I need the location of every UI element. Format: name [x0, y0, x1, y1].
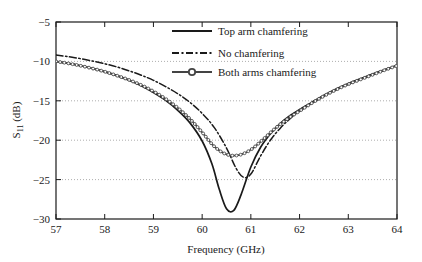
legend-label-0: Top arm chamfering — [218, 25, 308, 37]
series-marker — [172, 103, 175, 106]
x-axis-title: Frequency (GHz) — [187, 243, 265, 256]
series-marker — [375, 72, 378, 75]
series-marker — [254, 145, 257, 148]
series-marker — [325, 93, 328, 96]
series-marker — [181, 111, 184, 114]
series-marker — [178, 108, 181, 111]
series-marker — [263, 137, 266, 140]
series-marker — [344, 84, 347, 87]
series-marker — [59, 61, 62, 64]
series-marker — [88, 66, 91, 69]
series-marker — [199, 129, 202, 132]
x-tick-label: 58 — [99, 223, 111, 235]
series-marker — [151, 89, 154, 92]
series-marker — [243, 152, 246, 155]
series-marker — [158, 93, 161, 96]
series-marker — [383, 69, 386, 72]
series-marker — [193, 123, 196, 126]
series-marker — [379, 70, 382, 73]
series-marker — [231, 154, 234, 157]
series-marker — [318, 97, 321, 100]
series-marker — [235, 154, 238, 157]
y-tick-label: −25 — [33, 174, 51, 186]
series-marker — [266, 134, 269, 137]
legend-label-2: Both arms chamfering — [218, 66, 317, 78]
series-marker — [104, 70, 107, 73]
series-marker — [293, 113, 296, 116]
x-tick-label: 61 — [245, 223, 256, 235]
series-marker — [139, 83, 142, 86]
s11-frequency-line-chart: 5758596061626364 −5−10−15−20−25−30 Frequ… — [0, 0, 422, 262]
series-marker — [367, 75, 370, 78]
y-tick-label: −20 — [33, 134, 51, 146]
series-marker — [363, 76, 366, 79]
series-marker — [272, 128, 275, 131]
series-marker — [247, 150, 250, 153]
y-tick-label: −10 — [33, 55, 51, 67]
series-marker — [307, 104, 310, 107]
series-marker — [329, 91, 332, 94]
series-marker — [336, 88, 339, 91]
series-marker — [207, 139, 210, 142]
series-marker — [175, 105, 178, 108]
series-marker — [227, 153, 230, 156]
legend-label-1: No chamfering — [218, 47, 285, 59]
series-marker — [260, 139, 263, 142]
series-marker — [257, 142, 260, 145]
chart-figure: 5758596061626364 −5−10−15−20−25−30 Frequ… — [0, 0, 422, 262]
series-marker — [202, 132, 205, 135]
series-marker — [100, 69, 103, 72]
series-marker — [165, 98, 168, 101]
series-marker — [310, 102, 313, 105]
series-marker — [143, 85, 146, 88]
y-axis-title-unit: (dB) — [10, 101, 23, 124]
series-marker — [168, 100, 171, 103]
series-marker — [79, 64, 82, 67]
series-marker — [184, 114, 187, 117]
series-marker — [132, 80, 135, 83]
series-marker — [239, 153, 242, 156]
series-marker — [161, 96, 164, 99]
series-marker — [124, 77, 127, 80]
series-marker — [296, 111, 299, 114]
series-marker — [204, 135, 207, 138]
series-marker — [286, 118, 289, 121]
series-marker — [282, 120, 285, 123]
series-marker — [303, 106, 306, 109]
x-tick-label: 57 — [51, 223, 63, 235]
chart-background — [0, 0, 422, 262]
series-marker — [116, 74, 119, 77]
series-marker — [289, 115, 292, 118]
x-tick-label: 64 — [392, 223, 404, 235]
series-marker — [67, 62, 70, 65]
series-marker — [83, 65, 86, 68]
y-axis-title-subscript: 11 — [16, 125, 25, 133]
series-marker — [210, 142, 213, 145]
series-marker — [135, 82, 138, 85]
series-marker — [300, 109, 303, 112]
series-marker — [216, 148, 219, 151]
series-marker — [196, 126, 199, 129]
series-marker — [355, 79, 358, 82]
series-marker — [387, 67, 390, 70]
series-marker — [190, 119, 193, 122]
y-tick-label: −30 — [33, 213, 51, 225]
series-marker — [321, 95, 324, 98]
series-marker — [112, 73, 115, 76]
series-marker — [276, 125, 279, 128]
x-tick-label: 59 — [148, 223, 160, 235]
series-marker — [371, 73, 374, 76]
y-tick-label: −15 — [33, 95, 51, 107]
series-marker — [147, 87, 150, 90]
y-tick-label: −5 — [38, 16, 50, 28]
x-tick-label: 62 — [294, 223, 305, 235]
series-marker — [219, 150, 222, 153]
series-marker — [279, 123, 282, 126]
series-marker — [96, 68, 99, 71]
x-tick-label: 63 — [343, 223, 355, 235]
series-marker — [128, 78, 131, 81]
legend-marker-2 — [189, 69, 195, 75]
series-marker — [223, 152, 226, 155]
series-marker — [108, 72, 111, 75]
series-marker — [351, 81, 354, 84]
